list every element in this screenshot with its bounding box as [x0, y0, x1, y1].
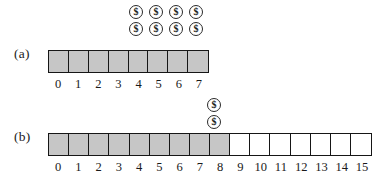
table-a-index-row: 0 1 2 3 4 5 6 7 — [48, 77, 209, 91]
coin-a-r2-c1[interactable]: $ — [129, 22, 143, 36]
table-b-index-9: 9 — [230, 160, 250, 174]
table-b-cell-6[interactable] — [170, 134, 190, 155]
table-b-cell-7[interactable] — [190, 134, 210, 155]
table-b-index-3: 3 — [109, 160, 129, 174]
dollar-icon: $ — [134, 7, 139, 17]
table-b-index-5: 5 — [149, 160, 169, 174]
coin-a-r1-c1[interactable]: $ — [129, 5, 143, 19]
table-b-index-0: 0 — [48, 160, 68, 174]
table-a-cell-2[interactable] — [89, 51, 109, 72]
coin-b-r2-c1[interactable]: $ — [207, 115, 221, 129]
table-b-cell-12[interactable] — [291, 134, 311, 155]
dollar-icon: $ — [194, 7, 199, 17]
coin-b-r1-c1[interactable]: $ — [207, 98, 221, 112]
table-a-cell-4[interactable] — [129, 51, 149, 72]
table-b-cell-10[interactable] — [250, 134, 270, 155]
table-b-index-12: 12 — [291, 160, 311, 174]
table-b-index-13: 13 — [311, 160, 331, 174]
dollar-icon: $ — [212, 100, 217, 110]
table-a-cell-7[interactable] — [188, 51, 208, 72]
panel-label-a: (a) — [14, 46, 30, 62]
table-a-cell-6[interactable] — [168, 51, 188, 72]
table-a-index-5: 5 — [149, 77, 169, 91]
table-b-index-6: 6 — [170, 160, 190, 174]
coin-a-r1-c3[interactable]: $ — [169, 5, 183, 19]
table-b-index-7: 7 — [190, 160, 210, 174]
figure-root: (a) $ $ $ $ $ $ $ $ — [0, 0, 385, 187]
table-a-cell-5[interactable] — [148, 51, 168, 72]
dollar-icon: $ — [174, 7, 179, 17]
table-a-index-0: 0 — [48, 77, 68, 91]
table-a-index-2: 2 — [88, 77, 108, 91]
table-b-cell-14[interactable] — [331, 134, 351, 155]
table-a-index-6: 6 — [169, 77, 189, 91]
table-b-cell-4[interactable] — [130, 134, 150, 155]
dollar-icon: $ — [134, 24, 139, 34]
dollar-icon: $ — [154, 7, 159, 17]
table-b-cell-2[interactable] — [89, 134, 109, 155]
table-b-cell-11[interactable] — [270, 134, 290, 155]
dollar-icon: $ — [194, 24, 199, 34]
table-b-index-10: 10 — [251, 160, 271, 174]
table-b-index-2: 2 — [89, 160, 109, 174]
coin-group-a: $ $ $ $ $ $ $ $ — [0, 0, 385, 187]
dollar-icon: $ — [174, 24, 179, 34]
dollar-icon: $ — [212, 117, 217, 127]
table-a-cell-1[interactable] — [69, 51, 89, 72]
table-b-index-row: 0 1 2 3 4 5 6 7 8 9 10 11 12 13 14 15 — [48, 160, 372, 174]
coin-a-r1-c4[interactable]: $ — [189, 5, 203, 19]
coin-a-r2-c4[interactable]: $ — [189, 22, 203, 36]
table-a-index-1: 1 — [68, 77, 88, 91]
dollar-icon: $ — [154, 24, 159, 34]
table-b-index-1: 1 — [68, 160, 88, 174]
coin-a-r2-c3[interactable]: $ — [169, 22, 183, 36]
panel-label-b: (b) — [14, 129, 30, 145]
table-b-cell-0[interactable] — [49, 134, 69, 155]
coin-a-r2-c2[interactable]: $ — [149, 22, 163, 36]
table-b-index-8: 8 — [210, 160, 230, 174]
table-b-index-4: 4 — [129, 160, 149, 174]
table-a — [48, 50, 209, 73]
table-b-cell-15[interactable] — [351, 134, 371, 155]
table-b-cell-13[interactable] — [311, 134, 331, 155]
table-b-cell-9[interactable] — [230, 134, 250, 155]
table-a-cell-0[interactable] — [49, 51, 69, 72]
table-b-cell-5[interactable] — [150, 134, 170, 155]
table-b-cell-8[interactable] — [210, 134, 230, 155]
table-b-index-15: 15 — [352, 160, 372, 174]
table-b-cell-1[interactable] — [69, 134, 89, 155]
table-a-index-7: 7 — [189, 77, 209, 91]
table-a-index-4: 4 — [129, 77, 149, 91]
table-b-index-14: 14 — [332, 160, 352, 174]
table-a-index-3: 3 — [108, 77, 128, 91]
table-b-cell-3[interactable] — [109, 134, 129, 155]
table-b — [48, 133, 372, 156]
table-a-cell-3[interactable] — [109, 51, 129, 72]
coin-a-r1-c2[interactable]: $ — [149, 5, 163, 19]
table-b-index-11: 11 — [271, 160, 291, 174]
